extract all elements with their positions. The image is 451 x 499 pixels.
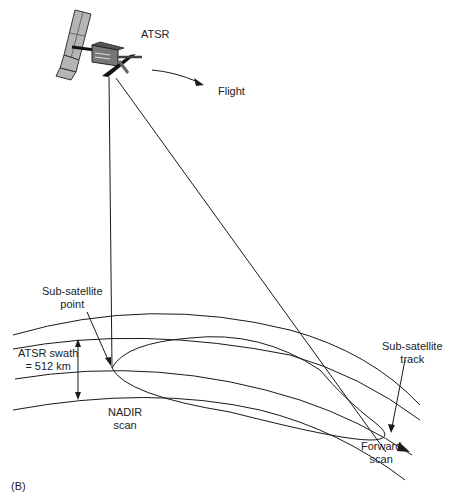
swath-line2: = 512 km <box>18 360 78 373</box>
forward-scan-label: Forward scan <box>361 440 401 466</box>
swath-label: ATSR swath = 512 km <box>18 347 78 373</box>
sub-satellite-point-line2: point <box>42 298 103 311</box>
swath-edge-lower <box>13 398 405 481</box>
nadir-line2: scan <box>108 419 142 432</box>
sub-satellite-track-leader <box>392 360 405 427</box>
nadir-view-line <box>109 77 112 368</box>
track-line2: track <box>382 353 443 366</box>
flight-label: Flight <box>218 85 245 98</box>
forward-line1: Forward <box>361 440 401 453</box>
flight-arrowhead-icon <box>194 78 204 86</box>
sub-satellite-track-arrowhead-icon <box>388 424 395 433</box>
atsr-geometry-diagram <box>0 0 451 499</box>
sub-satellite-point-leader <box>87 312 109 362</box>
track-line1: Sub-satellite <box>382 340 443 353</box>
scan-loop <box>112 337 385 440</box>
sub-satellite-point-line1: Sub-satellite <box>42 285 103 298</box>
sub-satellite-track-label: Sub-satellite track <box>382 340 443 366</box>
nadir-line1: NADIR <box>108 406 142 419</box>
atsr-label: ATSR <box>141 28 170 41</box>
flight-arrow <box>152 70 198 82</box>
sub-satellite-point-arrowhead-icon <box>105 357 111 366</box>
nadir-scan-label: NADIR scan <box>108 406 142 432</box>
sub-satellite-track <box>15 371 412 455</box>
sub-satellite-point-label: Sub-satellite point <box>42 285 103 311</box>
satellite-icon <box>56 10 142 80</box>
forward-line2: scan <box>361 453 401 466</box>
swath-line1: ATSR swath <box>18 347 78 360</box>
panel-label: (B) <box>11 480 26 493</box>
swath-arrowhead-bottom-icon <box>75 392 81 400</box>
